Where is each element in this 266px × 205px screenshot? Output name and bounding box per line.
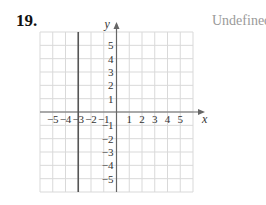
x-tick-label: 2 xyxy=(139,113,145,125)
x-tick-label: 5 xyxy=(178,113,184,125)
y-tick-label: −3 xyxy=(102,146,114,158)
y-axis-label: y xyxy=(104,17,111,31)
y-tick-label: −5 xyxy=(102,173,114,185)
x-tick-label: −4 xyxy=(60,113,72,125)
x-tick-label: 4 xyxy=(165,113,171,125)
y-tick-label: 5 xyxy=(108,39,114,51)
x-tick-label: −5 xyxy=(47,113,59,125)
y-axis-arrow-icon xyxy=(114,22,120,29)
y-tick-label: −4 xyxy=(102,159,114,171)
coordinate-grid: xy−5−4−3−2−112345−5−4−3−2−112345 xyxy=(0,0,266,205)
y-tick-label: −2 xyxy=(102,133,114,145)
y-tick-label: 1 xyxy=(108,93,114,105)
y-tick-label: 3 xyxy=(108,66,114,78)
x-axis-label: x xyxy=(201,112,208,126)
x-tick-label: 3 xyxy=(152,113,158,125)
x-tick-label: 1 xyxy=(127,113,133,125)
x-tick-label: −2 xyxy=(85,113,97,125)
y-tick-label: 4 xyxy=(108,53,114,65)
y-tick-label: −1 xyxy=(102,119,114,131)
y-tick-label: 2 xyxy=(108,79,114,91)
